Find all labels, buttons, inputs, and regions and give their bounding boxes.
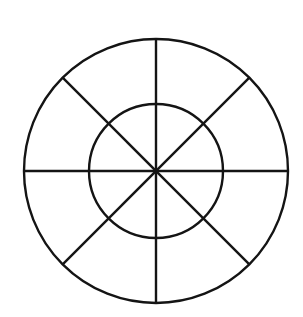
diagram-canvas <box>0 0 303 317</box>
wheel-diagram <box>0 0 303 317</box>
wheel-group <box>24 39 288 303</box>
